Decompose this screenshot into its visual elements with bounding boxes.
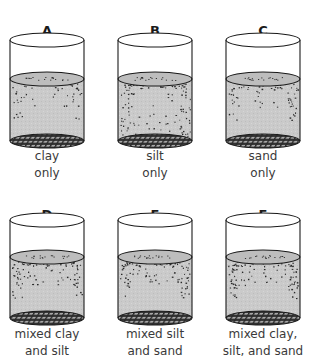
cylinder-caption-line1: sand (249, 149, 278, 163)
cylinder-rim (10, 213, 84, 227)
cylinder-rim (10, 33, 84, 47)
water-surface (118, 72, 192, 86)
cylinder-caption-line1: mixed silt (126, 327, 184, 341)
mesh-bottom (10, 134, 84, 148)
cylinder-caption-line2: and sand (127, 344, 182, 358)
cylinder-rim (226, 213, 300, 227)
cylinder-c: Csandonly (226, 23, 300, 180)
cylinder-caption-line1: clay (35, 149, 59, 163)
cylinder-caption-line2: only (142, 166, 167, 180)
cylinder-rim (118, 213, 192, 227)
water-surface (10, 250, 84, 264)
cylinder-caption-line1: silt (146, 149, 164, 163)
water-surface (10, 72, 84, 86)
cylinder-caption-line1: mixed clay, (229, 327, 298, 341)
mesh-bottom (118, 311, 192, 325)
cylinder-caption-line2: and silt (25, 344, 69, 358)
water-surface (226, 72, 300, 86)
mesh-bottom (118, 134, 192, 148)
cylinder-d: Dmixed clayand silt (10, 207, 84, 358)
cylinder-caption-line2: only (250, 166, 275, 180)
sediment-cylinders-diagram: AclayonlyBsiltonlyCsandonlyDmixed clayan… (0, 0, 310, 361)
cylinder-caption-line1: mixed clay (15, 327, 80, 341)
water-surface (118, 250, 192, 264)
cylinder-rim (118, 33, 192, 47)
cylinder-b: Bsiltonly (118, 23, 192, 180)
mesh-bottom (226, 134, 300, 148)
cylinder-a: Aclayonly (10, 23, 84, 180)
mesh-bottom (226, 311, 300, 325)
cylinder-caption-line2: only (34, 166, 59, 180)
cylinder-e: Emixed siltand sand (118, 207, 192, 358)
cylinder-f: Fmixed clay,silt, and sand (223, 207, 303, 358)
cylinder-caption-line2: silt, and sand (223, 344, 303, 358)
cylinder-rim (226, 33, 300, 47)
mesh-bottom (10, 311, 84, 325)
